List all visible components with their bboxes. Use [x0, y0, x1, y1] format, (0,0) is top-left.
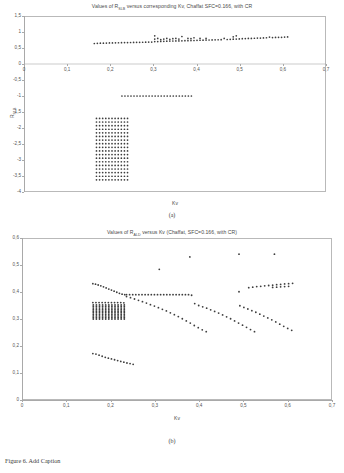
x-tick-label: 0,2: [103, 403, 119, 408]
y-tick-label: -3,5: [7, 173, 21, 178]
y-axis-spine: [24, 16, 25, 192]
y-axis-spine: [22, 238, 23, 400]
panel-a-x-axis-title: Kv: [165, 200, 185, 206]
figure-caption: Figure 6. Add Caption: [5, 457, 60, 464]
x-tick-label: 0,4: [191, 403, 207, 408]
y-tick-label: -1: [7, 93, 21, 98]
panel-b: Values of RALD versus Kv (Chaffat, SFC=0…: [0, 222, 344, 450]
y-tick-label: 0,5: [7, 45, 21, 50]
x-tick-label: 0,1: [59, 67, 75, 72]
x-tick-label: 0,6: [275, 67, 291, 72]
y-tick-label: 0,1: [5, 370, 19, 375]
y-tick-label: -2,5: [7, 141, 21, 146]
x-tick-label: 0,5: [235, 403, 251, 408]
panel-b-plot-area: [22, 238, 332, 400]
x-tick-mark: [24, 64, 25, 66]
y-tick-label: -3: [7, 157, 21, 162]
x-tick-label: 0,2: [102, 67, 118, 72]
figure-container: Values of RSLB versus corresponding Kv, …: [0, 0, 344, 473]
x-tick-mark: [326, 64, 327, 66]
y-tick-label: 0,6: [5, 235, 19, 240]
x-tick-label: 0: [16, 67, 32, 72]
x-tick-mark: [332, 400, 333, 402]
x-tick-label: 0,3: [145, 67, 161, 72]
x-tick-label: 0,3: [147, 403, 163, 408]
panel-a-data-layer: [24, 16, 326, 192]
y-tick-label: 1,5: [7, 13, 21, 18]
x-tick-mark: [240, 64, 241, 66]
panel-a: Values of RSLB versus corresponding Kv, …: [0, 0, 344, 222]
panel-b-x-axis-title: Kv: [167, 415, 187, 421]
panel-b-data-layer: [22, 238, 332, 400]
x-tick-label: 0,6: [280, 403, 296, 408]
x-tick-mark: [67, 64, 68, 66]
panel-b-title: Values of RALD versus Kv (Chaffat, SFC=0…: [0, 229, 344, 237]
y-tick-label: 1: [7, 29, 21, 34]
y-tick-label: -1,5: [7, 109, 21, 114]
x-tick-label: 0,4: [189, 67, 205, 72]
y-tick-mark: [22, 192, 24, 193]
x-tick-label: 0,1: [58, 403, 74, 408]
y-tick-label: -0,5: [7, 77, 21, 82]
x-tick-label: 0,7: [324, 403, 340, 408]
x-axis-spine: [22, 400, 332, 401]
panel-a-plot-area: [24, 16, 326, 192]
y-tick-label: 0,2: [5, 343, 19, 348]
panel-a-letter: (a): [0, 212, 344, 218]
panel-b-letter: (b): [0, 438, 344, 444]
y-tick-label: 0,5: [5, 262, 19, 267]
x-tick-label: 0: [14, 403, 30, 408]
y-tick-label: -4: [7, 189, 21, 194]
x-tick-mark: [110, 64, 111, 66]
x-tick-label: 0,7: [318, 67, 334, 72]
x-tick-mark: [197, 64, 198, 66]
panel-a-title: Values of RSLB versus corresponding Kv, …: [0, 3, 344, 11]
x-tick-mark: [153, 64, 154, 66]
y-tick-label: -2: [7, 125, 21, 130]
x-tick-mark: [283, 64, 284, 66]
y-tick-label: 0,4: [5, 289, 19, 294]
x-tick-label: 0,5: [232, 67, 248, 72]
y-tick-label: 0,3: [5, 316, 19, 321]
